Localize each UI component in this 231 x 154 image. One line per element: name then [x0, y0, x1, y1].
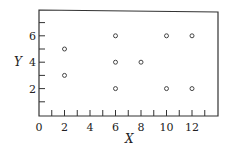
x-tick-label: 8 [138, 121, 145, 134]
data-point [114, 34, 118, 38]
data-point [190, 34, 194, 38]
x-tick-label: 4 [87, 121, 94, 134]
y-tick-label: 4 [29, 56, 36, 69]
x-tick-label: 0 [36, 121, 43, 134]
x-tick-label: 6 [112, 121, 119, 134]
y-tick-label: 2 [29, 83, 36, 96]
scatter-chart: 024681012246XY [0, 0, 231, 154]
x-axis-label: X [124, 132, 134, 146]
data-point [165, 34, 169, 38]
plot-frame [39, 10, 218, 116]
data-point [190, 87, 194, 91]
data-point [63, 47, 67, 51]
data-point [114, 60, 118, 64]
data-point [114, 87, 118, 91]
x-tick-label: 2 [61, 121, 68, 134]
x-tick-label: 10 [160, 121, 174, 134]
data-point [63, 73, 67, 77]
y-tick-label: 6 [29, 30, 36, 43]
y-axis-label: Y [14, 55, 23, 69]
data-point [165, 87, 169, 91]
x-tick-label: 12 [185, 121, 199, 134]
data-point [139, 60, 143, 64]
